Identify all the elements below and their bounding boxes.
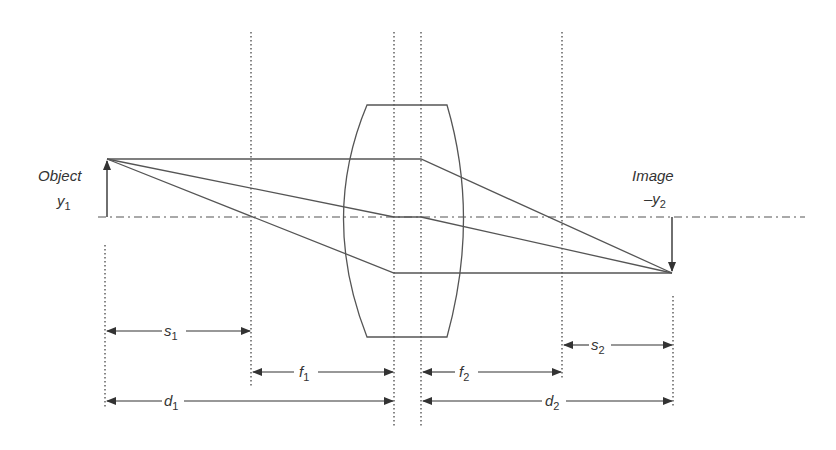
f2-label: f2 — [459, 363, 469, 383]
dimension-lines — [107, 331, 672, 401]
thick-lens — [344, 105, 464, 337]
image-height-label: –y2 — [643, 190, 666, 210]
image-label: Image — [632, 167, 674, 184]
object-label: Object — [38, 167, 82, 184]
diagram-canvas: Object y1 Image –y2 s1 f1 d1 f2 s2 d2 — [0, 0, 836, 450]
thick-lens-diagram: Object y1 Image –y2 s1 f1 d1 f2 s2 d2 — [0, 0, 836, 450]
d1-label: d1 — [164, 392, 178, 412]
s1-label: s1 — [164, 322, 178, 342]
object-height-label: y1 — [56, 192, 71, 212]
f1-label: f1 — [299, 363, 309, 383]
s2-label: s2 — [591, 336, 605, 356]
reference-lines — [105, 32, 673, 426]
chief-ray — [107, 159, 672, 273]
d2-label: d2 — [545, 392, 559, 412]
rays — [107, 159, 672, 273]
